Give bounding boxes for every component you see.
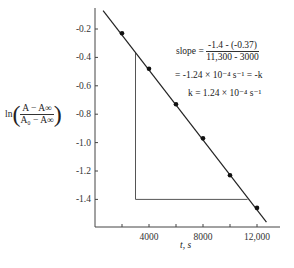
y-label-fraction: A − A∞ A₀ − A∞ (20, 103, 53, 126)
right-paren: ) (54, 102, 62, 126)
y-tick-label: -0.8 (76, 109, 91, 119)
y-tick-label: -0.6 (76, 81, 91, 91)
y-tick-label: -0.4 (76, 52, 91, 62)
slope-denominator: 11,300 - 3000 (206, 52, 259, 63)
left-paren: ( (12, 102, 20, 126)
data-point (228, 173, 233, 178)
y-tick-label: -1.0 (76, 138, 91, 148)
x-tick-label: 8000 (194, 232, 213, 242)
y-label-denominator: A₀ − A∞ (20, 115, 53, 126)
data-point (120, 31, 125, 36)
y-tick-label: -1.4 (76, 194, 91, 204)
x-axis-label: t, s (180, 240, 191, 250)
rate-constant: k = 1.24 × 10⁻⁴ s⁻¹ (188, 87, 261, 98)
slope-numerator: -1.4 - (-0.37) (206, 40, 259, 52)
x-tick-label: 12,000 (244, 232, 270, 242)
y-axis-label: ln ( A − A∞ A₀ − A∞ ) (5, 102, 62, 126)
ln-text: ln (5, 109, 12, 119)
data-point (147, 66, 152, 71)
data-point (201, 136, 206, 141)
x-tick-label: 4000 (140, 232, 159, 242)
data-point (255, 206, 260, 211)
y-tick-label: -0.2 (76, 24, 91, 34)
slope-fraction: -1.4 - (-0.37) 11,300 - 3000 (206, 40, 259, 63)
y-label-numerator: A − A∞ (20, 103, 53, 115)
y-tick-label: -1.2 (76, 166, 91, 176)
slope-label: slope = (176, 46, 204, 56)
data-point (174, 102, 179, 107)
slope-value: = -1.24 × 10⁻⁴ s⁻¹ = -k (175, 69, 262, 80)
slope-annotation: slope = -1.4 - (-0.37) 11,300 - 3000 (176, 40, 259, 63)
